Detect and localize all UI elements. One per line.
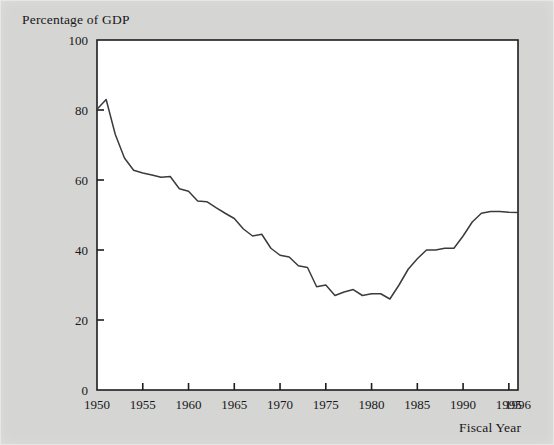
x-tick-label: 1960	[176, 397, 202, 412]
y-tick-label: 60	[75, 173, 88, 188]
y-tick-label: 0	[82, 383, 89, 398]
y-tick-label: 20	[75, 313, 88, 328]
y-axis-tick-labels: 020406080100	[69, 33, 89, 398]
x-tick-label: 1965	[221, 397, 247, 412]
x-tick-label: 1955	[130, 397, 156, 412]
x-tick-label: 1996	[505, 397, 532, 412]
line-chart-plot: 020406080100 195019551960196519701975198…	[0, 0, 554, 445]
y-tick-label: 100	[69, 33, 89, 48]
x-tick-label: 1970	[267, 397, 293, 412]
plot-area-background	[97, 40, 518, 390]
x-axis-title: Fiscal Year	[459, 420, 521, 436]
plot-background	[97, 40, 518, 390]
x-tick-label: 1985	[404, 397, 430, 412]
x-tick-label: 1975	[313, 397, 339, 412]
y-tick-label: 40	[75, 243, 88, 258]
y-tick-label: 80	[75, 103, 88, 118]
x-axis-tick-labels: 1950195519601965197019751980198519901995…	[84, 397, 532, 412]
x-tick-label: 1990	[450, 397, 476, 412]
figure-container: Percentage of GDP 020406080100 195019551…	[0, 0, 554, 445]
x-tick-label: 1980	[359, 397, 385, 412]
x-tick-label: 1950	[84, 397, 110, 412]
